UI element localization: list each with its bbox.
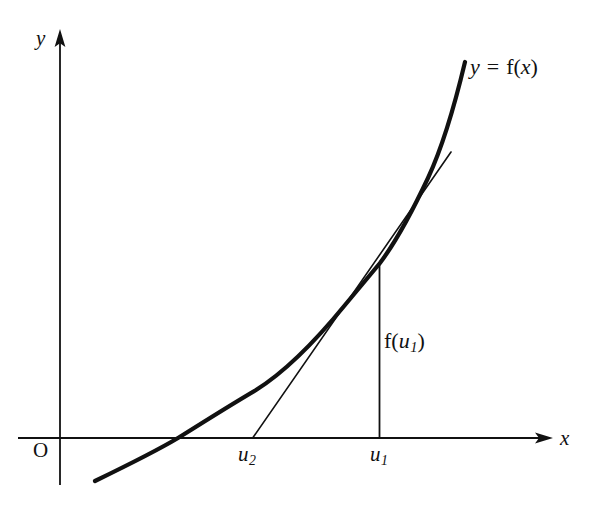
newton-raphson-figure: y x O y=f(x) u2 u1 f(u1) [0,0,595,506]
origin-label: O [33,440,48,461]
tick-label-u2-base: u [238,442,249,466]
fu1-label-close-paren: ) [417,328,424,353]
tick-label-u1-subscript: 1 [381,453,388,468]
fu1-label-subscript: 1 [410,339,417,355]
tick-label-u1: u1 [370,444,388,465]
function-curve [95,62,465,481]
fu1-label-f: f( [384,328,399,353]
curve-equation-label: y=f(x) [470,56,538,78]
fu1-label-u: u [399,328,410,353]
tick-label-u1-base: u [370,442,381,466]
curve-label-x: x [521,54,531,79]
curve-label-f: f( [506,54,521,79]
tangent-line [253,152,451,438]
x-axis [18,432,553,443]
curve-label-y: y [470,54,480,79]
x-axis-label: x [560,428,569,449]
ordinate-label-fu1: f(u1) [384,330,425,352]
curve-label-close-paren: ) [531,54,538,79]
y-axis-label: y [36,28,45,49]
tick-label-u2-subscript: 2 [249,453,256,468]
tick-label-u2: u2 [238,444,256,465]
curve-label-equals: = [480,54,506,79]
y-axis [55,29,66,485]
